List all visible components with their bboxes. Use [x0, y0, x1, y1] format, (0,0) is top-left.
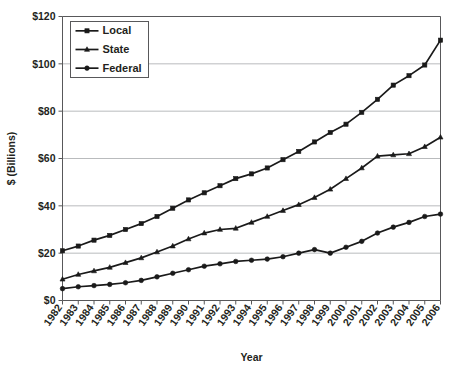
x-tick-label-2006: 2006	[419, 302, 442, 328]
marker-local-1993	[234, 177, 238, 181]
marker-federal-1984	[92, 283, 97, 288]
marker-local-2004	[407, 74, 411, 78]
marker-federal-1982	[60, 286, 65, 291]
marker-local-1988	[155, 214, 159, 218]
marker-local-1999	[328, 130, 332, 134]
marker-federal-1988	[155, 275, 160, 280]
marker-federal-1991	[202, 264, 207, 269]
legend: LocalStateFederal	[71, 22, 149, 78]
y-axis-title: $ (Billions)	[5, 132, 17, 186]
y-tick-label-60: $60	[38, 152, 56, 164]
marker-local-2005	[423, 63, 427, 67]
marker-federal-1985	[107, 282, 112, 287]
legend-label-federal: Federal	[103, 62, 142, 74]
marker-federal-1983	[76, 284, 81, 289]
x-axis-ticks: 1982198319841985198619871988198919901991…	[41, 301, 442, 328]
marker-local-2001	[360, 110, 364, 114]
series-line-federal	[63, 214, 441, 289]
line-chart: $0$20$40$60$80$100$120198219831984198519…	[0, 0, 465, 372]
y-tick-label-20: $20	[38, 247, 56, 259]
marker-federal-1993	[233, 259, 238, 264]
marker-local-1991	[202, 191, 206, 195]
marker-local-1994	[249, 172, 253, 176]
marker-local-2003	[391, 83, 395, 87]
marker-local-1996	[281, 158, 285, 162]
marker-federal-1987	[139, 278, 144, 283]
marker-local-1987	[139, 221, 143, 225]
marker-local-1990	[186, 198, 190, 202]
marker-federal-1999	[328, 251, 333, 256]
y-tick-label-80: $80	[38, 105, 56, 117]
marker-federal-1998	[312, 247, 317, 252]
legend-label-state: State	[103, 43, 130, 55]
x-axis-title: Year	[240, 351, 262, 363]
marker-federal-1986	[123, 280, 128, 285]
marker-federal-2003	[391, 225, 396, 230]
y-tick-label-40: $40	[38, 200, 56, 212]
y-tick-label-120: $120	[32, 10, 56, 22]
marker-local-1986	[123, 227, 127, 231]
marker-federal-2006	[438, 212, 443, 217]
marker-federal-1990	[186, 267, 191, 272]
marker-federal-1997	[296, 251, 301, 256]
marker-local-1992	[218, 184, 222, 188]
marker-federal-1989	[170, 271, 175, 276]
marker-local-1997	[297, 149, 301, 153]
marker-local-1998	[312, 140, 316, 144]
marker-federal-2005	[422, 214, 427, 219]
legend-marker-local-icon	[85, 29, 89, 33]
marker-local-1995	[265, 166, 269, 170]
marker-local-1984	[92, 238, 96, 242]
marker-local-1983	[76, 244, 80, 248]
marker-federal-1992	[218, 262, 223, 267]
marker-federal-2001	[359, 239, 364, 244]
marker-federal-1994	[249, 258, 254, 263]
marker-federal-2002	[375, 231, 380, 236]
y-tick-label-100: $100	[32, 58, 56, 70]
marker-federal-1996	[281, 254, 286, 259]
marker-federal-2000	[344, 245, 349, 250]
marker-local-2000	[344, 122, 348, 126]
marker-local-1982	[60, 249, 64, 253]
marker-state-2006	[438, 134, 443, 139]
marker-local-2006	[438, 38, 442, 42]
chart-figure: $0$20$40$60$80$100$120198219831984198519…	[0, 0, 465, 372]
y-axis-ticks: $0$20$40$60$80$100$120	[32, 10, 62, 306]
marker-local-1985	[108, 233, 112, 237]
legend-marker-federal-icon	[85, 66, 90, 71]
legend-label-local: Local	[103, 24, 132, 36]
marker-federal-2004	[407, 220, 412, 225]
marker-federal-1995	[265, 257, 270, 262]
marker-local-2002	[375, 97, 379, 101]
marker-local-1989	[171, 206, 175, 210]
